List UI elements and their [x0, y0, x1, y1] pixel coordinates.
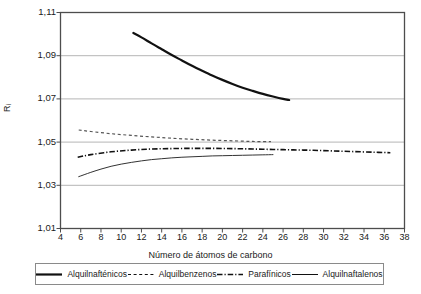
x-axis-tick-label: 6 — [71, 232, 91, 242]
legend-label: Alquilnafténicos — [67, 269, 127, 279]
series-line-alquilbenzenos — [79, 130, 271, 142]
x-axis-tick-label: 18 — [192, 232, 212, 242]
x-axis-tick-label: 30 — [314, 232, 334, 242]
x-axis-tick-label: 32 — [334, 232, 354, 242]
legend-swatch-icon — [217, 271, 243, 278]
x-axis-tick-label: 8 — [91, 232, 111, 242]
x-axis-tick-label: 16 — [172, 232, 192, 242]
y-axis-tick-text: 1,11 — [38, 6, 56, 17]
x-axis-tick-label: 38 — [395, 232, 415, 242]
legend-swatch-icon — [292, 271, 318, 278]
x-axis-tick-label: 34 — [354, 232, 374, 242]
y-axis-label-main: R — [2, 106, 12, 113]
legend-label: Alquilnaftalenos — [323, 269, 383, 279]
legend-item: Alquilbenzenos — [128, 269, 217, 279]
x-axis-tick-label: 10 — [111, 232, 131, 242]
x-axis-tick-label: 36 — [374, 232, 394, 242]
y-axis-tick-text: 1,03 — [38, 179, 57, 190]
x-axis-tick-label: 12 — [131, 232, 151, 242]
x-axis-tick-label: 26 — [273, 232, 293, 242]
x-axis-label: Número de átomos de carbono — [0, 250, 421, 260]
legend-label: Parafínicos — [248, 269, 291, 279]
chart-figure: Ri Número de átomos de carbono 1,011,031… — [0, 0, 421, 294]
legend-label: Alquilbenzenos — [159, 269, 217, 279]
chart-legend: AlquilnafténicosAlquilbenzenosParafínico… — [35, 263, 384, 285]
series-line-alquilnaftalenos — [79, 155, 273, 177]
y-axis-label-sub: i — [5, 104, 12, 106]
y-axis-tick-text: 1,09 — [38, 49, 57, 60]
x-axis-tick-label: 22 — [233, 232, 253, 242]
y-axis-label: Ri — [2, 104, 12, 112]
y-axis-tick-text: 1,05 — [38, 136, 57, 147]
x-axis-tick-label: 4 — [51, 232, 71, 242]
x-axis-tick-label: 20 — [212, 232, 232, 242]
y-axis-tick-text: 1,07 — [38, 92, 57, 103]
legend-item: Parafínicos — [217, 269, 291, 279]
legend-item: Alquilnaftalenos — [292, 269, 383, 279]
x-axis-tick-label: 24 — [253, 232, 273, 242]
series-line-alquilnafténicos — [133, 33, 289, 100]
legend-swatch-icon — [128, 271, 154, 278]
legend-swatch-icon — [36, 271, 62, 278]
x-axis-tick-label: 28 — [293, 232, 313, 242]
x-axis-tick-label: 14 — [152, 232, 172, 242]
legend-item: Alquilnafténicos — [36, 269, 127, 279]
plot-frame — [61, 13, 405, 229]
